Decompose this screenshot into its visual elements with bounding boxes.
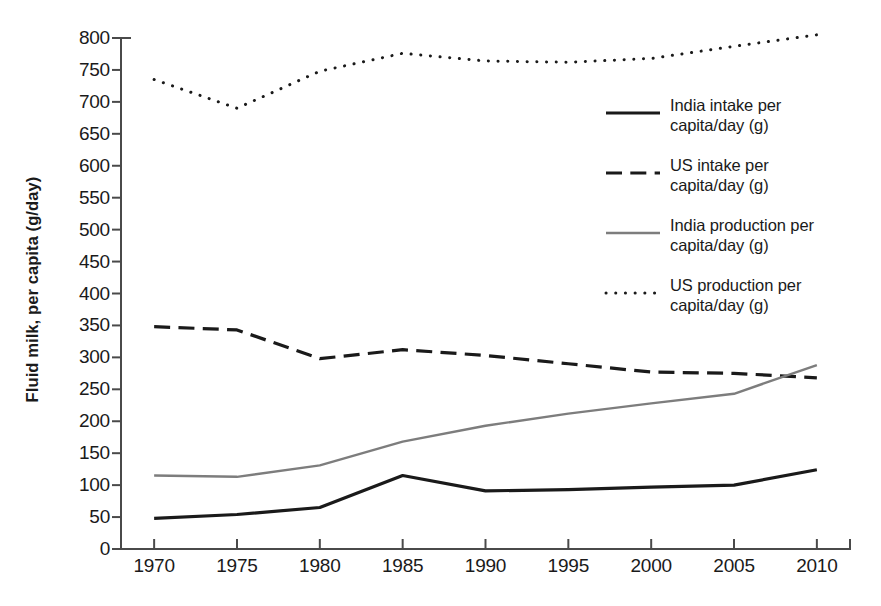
x-tick-label: 2010 — [772, 556, 862, 576]
x-tick-label: 1990 — [441, 556, 531, 576]
legend-item[interactable]: India intake percapita/day (g) — [604, 96, 876, 135]
legend-label-line2: capita/day (g) — [670, 116, 781, 136]
legend-line-swatch-icon — [604, 276, 666, 310]
x-tick-label: 1980 — [275, 556, 365, 576]
chart-figure: Fluid milk, per capita (g/day) 050100150… — [0, 0, 881, 606]
x-tick-label: 1985 — [358, 556, 448, 576]
legend-label: US production percapita/day (g) — [666, 276, 801, 315]
legend-item[interactable]: India production percapita/day (g) — [604, 216, 876, 255]
legend-item[interactable]: US intake percapita/day (g) — [604, 156, 876, 195]
legend-label: India intake percapita/day (g) — [666, 96, 781, 135]
x-tick-label: 1975 — [192, 556, 282, 576]
legend-item[interactable]: US production percapita/day (g) — [604, 276, 876, 315]
legend-label: India production percapita/day (g) — [666, 216, 814, 255]
clipped-caption — [0, 598, 881, 606]
legend-label-line2: capita/day (g) — [670, 236, 814, 256]
legend-line-swatch-icon — [604, 216, 666, 250]
legend-label-line1: US intake per — [670, 156, 769, 176]
legend-label-line2: capita/day (g) — [670, 176, 769, 196]
x-tick-label: 2000 — [606, 556, 696, 576]
legend-label-line1: India intake per — [670, 96, 781, 116]
chart-legend: India intake percapita/day (g)US intake … — [604, 96, 876, 336]
x-tick-label: 2005 — [689, 556, 779, 576]
legend-label: US intake percapita/day (g) — [666, 156, 769, 195]
legend-label-line2: capita/day (g) — [670, 296, 801, 316]
legend-label-line1: US production per — [670, 276, 801, 296]
legend-line-swatch-icon — [604, 96, 666, 130]
legend-line-swatch-icon — [604, 156, 666, 190]
legend-label-line1: India production per — [670, 216, 814, 236]
series-line-0 — [154, 470, 817, 519]
x-tick-label: 1970 — [109, 556, 199, 576]
series-line-2 — [154, 365, 817, 477]
x-tick-label: 1995 — [523, 556, 613, 576]
